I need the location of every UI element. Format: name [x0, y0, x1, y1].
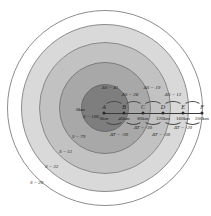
point-marker-a — [103, 112, 106, 115]
arc-up-d — [163, 101, 183, 113]
arc-up-e — [183, 101, 202, 113]
distance-label-a: 0km — [100, 116, 109, 121]
contour-value-label-3: S = 32 — [45, 164, 58, 169]
distance-label-d: 120km — [156, 116, 170, 121]
point-label-c: C — [141, 104, 145, 110]
contour-value-label-1: S = 79 — [72, 134, 85, 139]
point-marker-f — [201, 112, 204, 115]
point-label-d: D — [161, 104, 165, 110]
distance-label-c: 80km — [137, 116, 148, 121]
distance-label-b: 40km — [118, 116, 129, 121]
point-label-f: F — [200, 104, 204, 110]
delta_s_lower-0: ΔS = 28 — [122, 92, 138, 97]
distance-label-f: 200km — [195, 116, 209, 121]
point-marker-b — [123, 112, 126, 115]
delta_t_lower-0: ΔT = -30 — [110, 132, 128, 137]
contour-diagram: ABCDEF 0km40km80km120km160km200km ΔS = 4… — [0, 0, 211, 216]
contour-value-label-4: S = 20 — [30, 180, 43, 185]
point-marker-e — [182, 112, 185, 115]
delta_s_upper-1: ΔS = 19 — [144, 85, 160, 90]
contour-value-label-2: S = 51 — [59, 149, 72, 154]
delta_s_upper-0: ΔS = 41 — [102, 85, 118, 90]
delta_s_lower-1: ΔS = 12 — [165, 92, 181, 97]
point-marker-d — [162, 112, 165, 115]
distance-label-e: 160km — [176, 116, 190, 121]
arc-up-a — [104, 101, 124, 113]
delta_t_upper-1: ΔT = -20 — [174, 125, 192, 130]
delta_t_lower-1: ΔT = -30 — [152, 132, 170, 137]
point-label-e: E — [181, 104, 185, 110]
contour-value-label-0: S = 100 — [83, 114, 99, 119]
point-label-a: A — [102, 104, 106, 110]
origin-label: 0km — [76, 107, 85, 112]
point-marker-c — [142, 112, 145, 115]
point-label-b: B — [122, 104, 126, 110]
delta_t_upper-0: ΔT = -30 — [134, 125, 152, 130]
